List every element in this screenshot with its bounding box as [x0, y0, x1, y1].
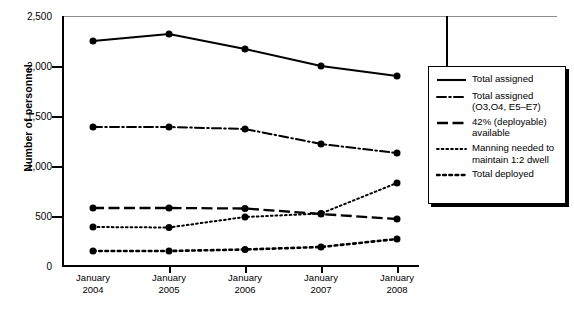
- data-point-marker: [90, 38, 97, 45]
- series-solid: [90, 31, 401, 80]
- data-point-marker: [242, 126, 249, 133]
- data-point-marker: [394, 180, 401, 187]
- x-tick-month: January: [152, 272, 186, 283]
- x-tick-mark: [169, 267, 171, 273]
- x-tick-month: January: [228, 272, 262, 283]
- data-point-marker: [242, 214, 249, 221]
- legend-line-swatch: [436, 73, 467, 86]
- legend-line-swatch: [436, 168, 467, 181]
- x-tick-month: January: [76, 272, 110, 283]
- y-tick-mark: [52, 66, 63, 68]
- x-tick-year: 2006: [234, 284, 255, 295]
- data-point-marker: [318, 210, 325, 217]
- data-point-marker: [394, 73, 401, 80]
- data-point-marker: [318, 63, 325, 70]
- legend-item: Total assigned: [436, 73, 560, 86]
- data-point-marker: [90, 124, 97, 131]
- data-point-marker: [394, 150, 401, 157]
- legend-line-swatch: [436, 90, 467, 103]
- data-point-marker: [90, 224, 97, 231]
- legend-item: Total assigned (O3,O4, E5–E7): [436, 90, 560, 113]
- data-point-marker: [318, 141, 325, 148]
- x-tick-year: 2004: [82, 284, 103, 295]
- series-dash-dot: [90, 124, 401, 157]
- x-tick-year: 2005: [158, 284, 179, 295]
- x-tick-label: January2008: [352, 272, 442, 295]
- chart-legend: Total assignedTotal assigned (O3,O4, E5–…: [428, 66, 566, 204]
- x-tick-year: 2008: [386, 284, 407, 295]
- data-point-marker: [166, 224, 173, 231]
- data-point-marker: [318, 244, 325, 251]
- y-tick-mark: [52, 116, 63, 118]
- data-point-marker: [394, 216, 401, 223]
- x-tick-month: January: [380, 272, 414, 283]
- data-point-marker: [166, 31, 173, 38]
- legend-item: Total deployed: [436, 168, 560, 181]
- x-tick-mark: [321, 267, 323, 273]
- data-point-marker: [166, 248, 173, 255]
- data-point-marker: [166, 124, 173, 131]
- legend-item-label: Total assigned: [472, 73, 533, 84]
- x-tick-year: 2007: [310, 284, 331, 295]
- series-line: [93, 34, 397, 76]
- data-point-marker: [166, 205, 173, 212]
- data-point-marker: [242, 246, 249, 253]
- legend-item-label: 42% (deployable) available: [472, 116, 560, 139]
- x-tick-mark: [397, 267, 399, 273]
- legend-line-swatch: [436, 116, 467, 129]
- legend-item-label: Total deployed: [472, 168, 534, 179]
- series-coarse-dotted: [90, 236, 401, 255]
- data-point-marker: [90, 205, 97, 212]
- data-point-marker: [90, 248, 97, 255]
- legend-item: 42% (deployable) available: [436, 116, 560, 139]
- legend-item-label: Manning needed to maintain 1:2 dwell: [472, 142, 560, 165]
- data-point-marker: [242, 46, 249, 53]
- data-point-marker: [394, 236, 401, 243]
- legend-item: Manning needed to maintain 1:2 dwell: [436, 142, 560, 165]
- y-tick-mark: [52, 166, 63, 168]
- x-tick-month: January: [304, 272, 338, 283]
- chart-figure: Number of personnel 05001,0001,5002,0002…: [0, 0, 574, 309]
- x-tick-mark: [245, 267, 247, 273]
- legend-line-swatch: [436, 142, 467, 155]
- y-tick-mark: [52, 216, 63, 218]
- legend-item-label: Total assigned (O3,O4, E5–E7): [472, 90, 560, 113]
- data-point-marker: [242, 205, 249, 212]
